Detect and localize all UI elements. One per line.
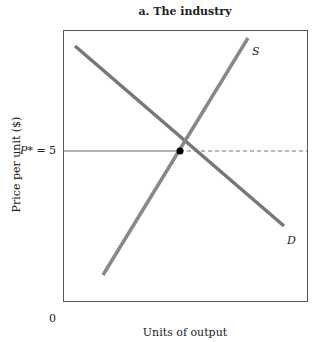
chart-plot bbox=[0, 0, 327, 342]
origin-label: 0 bbox=[49, 312, 56, 325]
demand-curve bbox=[75, 46, 284, 226]
plot-frame bbox=[64, 31, 308, 302]
supply-curve bbox=[103, 38, 248, 275]
supply-label: S bbox=[252, 45, 260, 58]
y-axis-label: Price per unit ($) bbox=[10, 105, 23, 225]
equilibrium-point bbox=[177, 148, 184, 155]
x-axis-label: Units of output bbox=[63, 326, 307, 339]
price-tick-label: P* = 5 bbox=[20, 144, 56, 157]
demand-label: D bbox=[287, 234, 296, 247]
